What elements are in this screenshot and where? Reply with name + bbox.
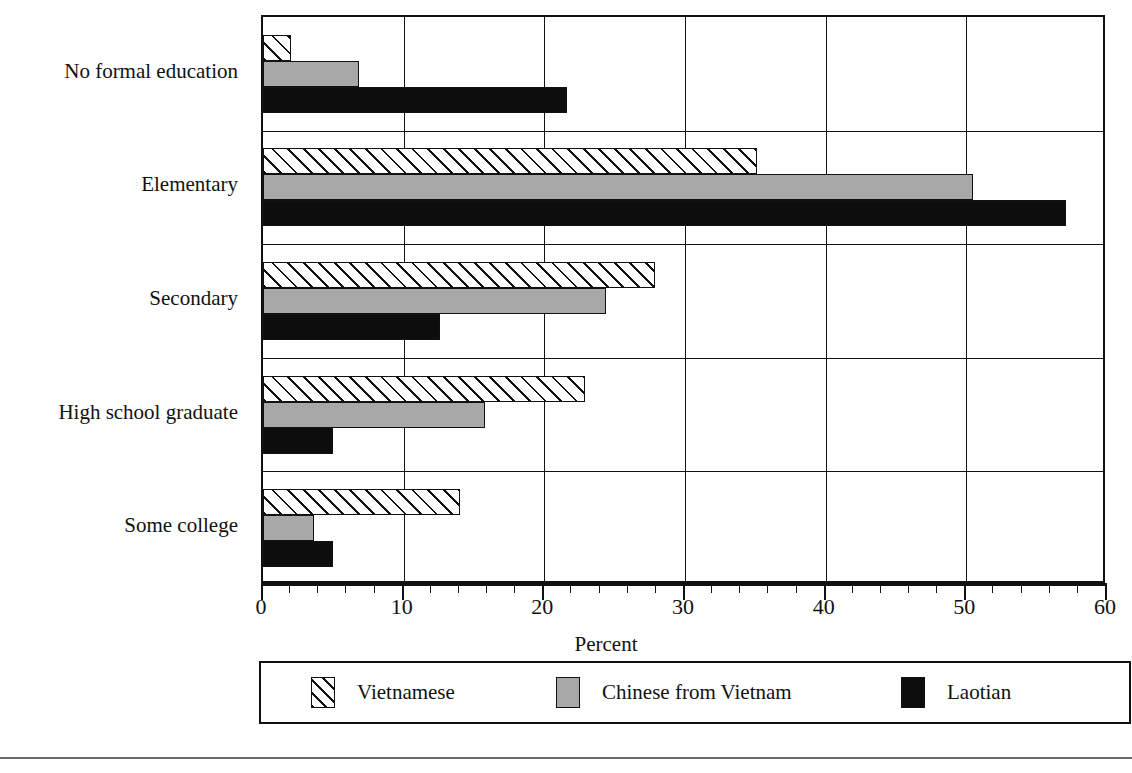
bar	[263, 402, 485, 428]
legend-swatch-icon-1	[556, 677, 580, 708]
legend-entry-1: Chinese from Vietnam	[556, 677, 792, 708]
x-tick-minor-38	[796, 583, 797, 593]
x-axis	[261, 583, 1107, 586]
x-tick-minor-16	[486, 583, 487, 593]
legend-label-1: Chinese from Vietnam	[602, 682, 792, 703]
x-tick-minor-52	[992, 583, 993, 593]
bar	[263, 515, 314, 541]
bar	[263, 35, 291, 61]
x-tick-minor-8	[374, 583, 375, 593]
bar	[263, 200, 1066, 226]
x-tick-minor-34	[739, 583, 740, 593]
bar	[263, 87, 567, 113]
x-tick-minor-14	[458, 583, 459, 593]
gridline-horizontal-2	[263, 244, 1103, 245]
x-tick-label-50: 50	[953, 596, 975, 618]
gridline-horizontal-3	[263, 358, 1103, 359]
x-axis-title: Percent	[0, 632, 1132, 657]
bar-group	[263, 376, 1103, 454]
x-tick-minor-26	[627, 583, 628, 593]
bar	[263, 428, 333, 454]
bar	[263, 61, 359, 87]
bar-group	[263, 489, 1103, 567]
legend-entry-2: Laotian	[901, 677, 1011, 708]
x-axis-tick-labels: 0102030405060	[0, 596, 1132, 626]
x-tick-minor-42	[852, 583, 853, 593]
x-tick-minor-28	[655, 583, 656, 593]
x-tick-minor-22	[570, 583, 571, 593]
x-tick-minor-46	[908, 583, 909, 593]
x-tick-minor-54	[1021, 583, 1022, 593]
bar	[263, 489, 460, 515]
category-label-0: No formal education	[0, 61, 238, 82]
x-tick-minor-12	[430, 583, 431, 593]
category-label-1: Elementary	[0, 174, 238, 195]
x-tick-minor-48	[936, 583, 937, 593]
gridline-horizontal-1	[263, 131, 1103, 132]
bar	[263, 376, 585, 402]
x-tick-minor-36	[767, 583, 768, 593]
x-axis-title-text: Percent	[575, 632, 638, 656]
category-label-4: Some college	[0, 515, 238, 536]
x-tick-label-0: 0	[256, 596, 267, 618]
x-tick-label-20: 20	[531, 596, 553, 618]
page-bottom-rule	[0, 757, 1132, 759]
x-tick-minor-24	[599, 583, 600, 593]
bar	[263, 314, 440, 340]
x-tick-minor-18	[514, 583, 515, 593]
x-tick-label-40: 40	[813, 596, 835, 618]
bar	[263, 262, 655, 288]
x-tick-minor-4	[317, 583, 318, 593]
bar-group	[263, 35, 1103, 113]
bar	[263, 148, 757, 174]
category-axis-labels: No formal educationElementarySecondaryHi…	[0, 15, 250, 583]
x-tick-label-30: 30	[672, 596, 694, 618]
bar	[263, 288, 606, 314]
gridline-horizontal-4	[263, 471, 1103, 472]
legend-label-2: Laotian	[947, 682, 1011, 703]
x-tick-minor-2	[289, 583, 290, 593]
x-tick-minor-6	[345, 583, 346, 593]
legend-swatch-icon-0	[311, 677, 335, 708]
bar	[263, 541, 333, 567]
x-tick-minor-58	[1077, 583, 1078, 593]
bar	[263, 174, 973, 200]
legend-label-0: Vietnamese	[357, 682, 455, 703]
x-tick-minor-44	[880, 583, 881, 593]
bar-group	[263, 148, 1103, 226]
legend-entry-0: Vietnamese	[311, 677, 455, 708]
category-label-2: Secondary	[0, 288, 238, 309]
legend-swatch-icon-2	[901, 677, 925, 708]
bar-chart-figure: No formal educationElementarySecondaryHi…	[0, 0, 1132, 773]
category-label-3: High school graduate	[0, 402, 238, 423]
x-tick-label-10: 10	[391, 596, 413, 618]
x-tick-minor-56	[1049, 583, 1050, 593]
plot-area	[261, 15, 1105, 583]
legend: VietnameseChinese from VietnamLaotian	[259, 661, 1131, 724]
x-tick-label-60: 60	[1094, 596, 1116, 618]
bar-group	[263, 262, 1103, 340]
x-tick-minor-32	[711, 583, 712, 593]
